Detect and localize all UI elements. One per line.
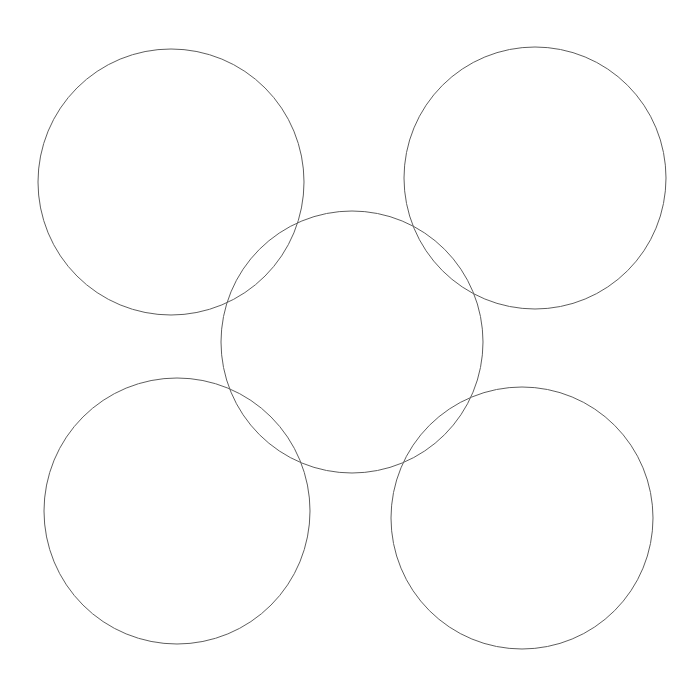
circles-diagram (0, 0, 695, 686)
background (0, 0, 695, 686)
